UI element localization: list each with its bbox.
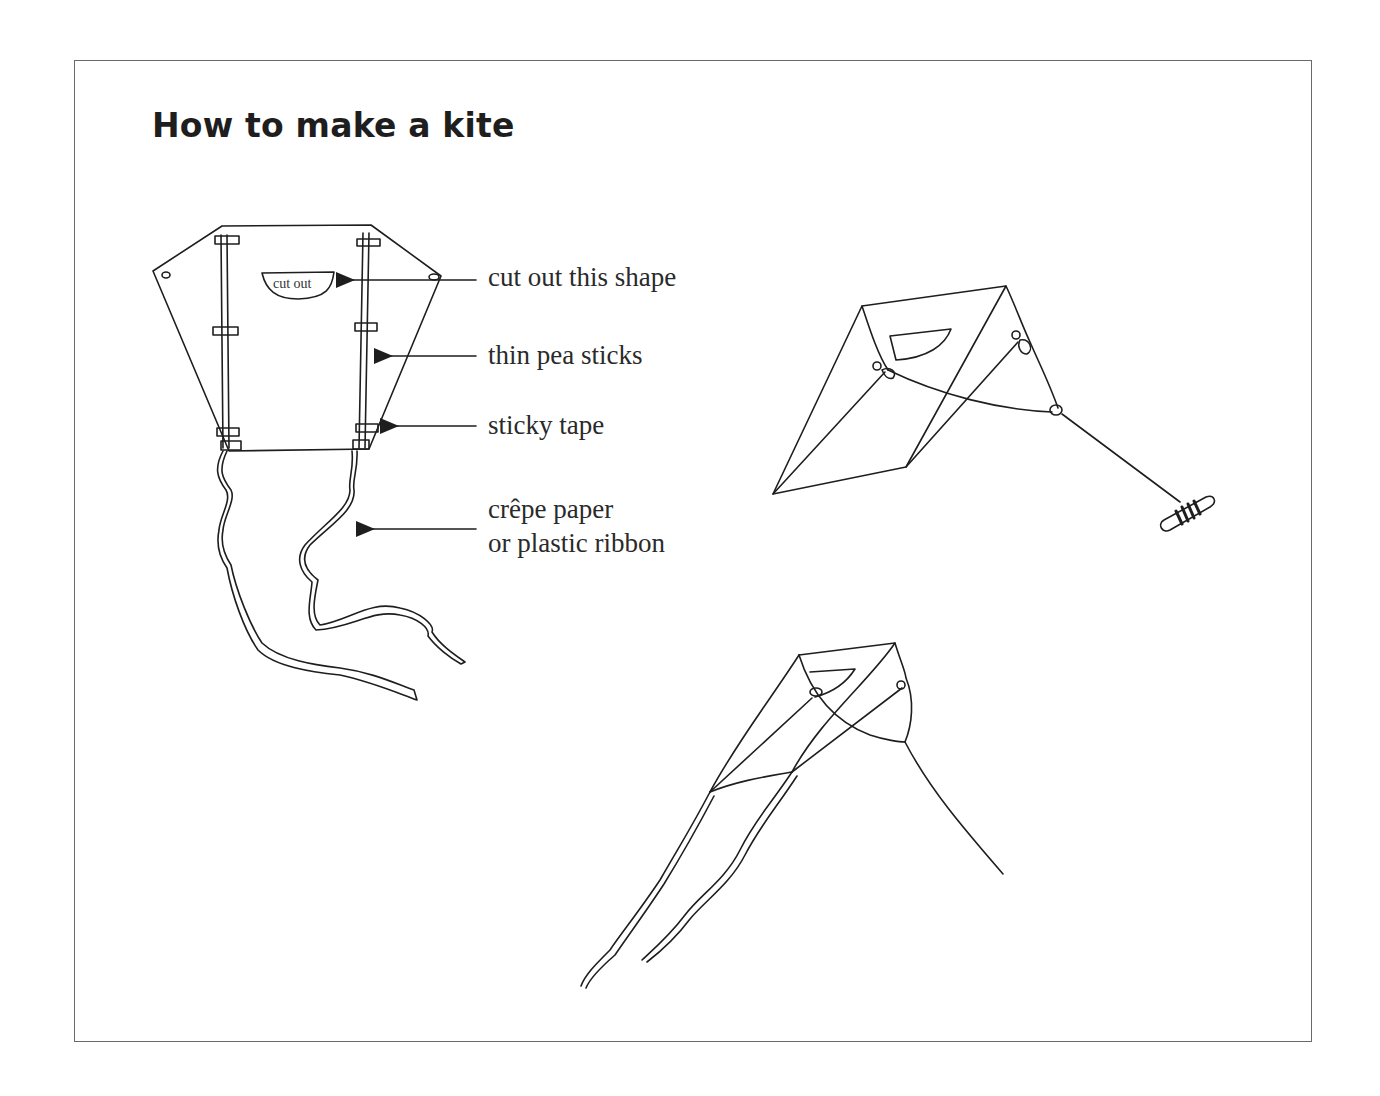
pea-stick-right bbox=[359, 233, 369, 448]
callout-pea-sticks: thin pea sticks bbox=[488, 338, 642, 372]
cutout-label: cut out bbox=[273, 276, 312, 292]
pea-stick-left bbox=[221, 235, 229, 448]
corner-hole-icon bbox=[162, 272, 170, 278]
flying-kite-with-tails bbox=[581, 643, 1003, 988]
kite-illustrations bbox=[0, 0, 1380, 1096]
callout-plastic-ribbon: or plastic ribbon bbox=[488, 526, 665, 560]
callout-crepe-paper: crêpe paper bbox=[488, 492, 613, 526]
callout-cut-out-shape: cut out this shape bbox=[488, 260, 676, 294]
corner-hole-icon bbox=[429, 274, 439, 280]
flying-kite-with-reel bbox=[773, 286, 1214, 531]
callout-arrows bbox=[352, 280, 476, 529]
callout-sticky-tape: sticky tape bbox=[488, 408, 604, 442]
flat-kite-drawing bbox=[153, 225, 465, 700]
string-reel-icon bbox=[1161, 496, 1215, 531]
